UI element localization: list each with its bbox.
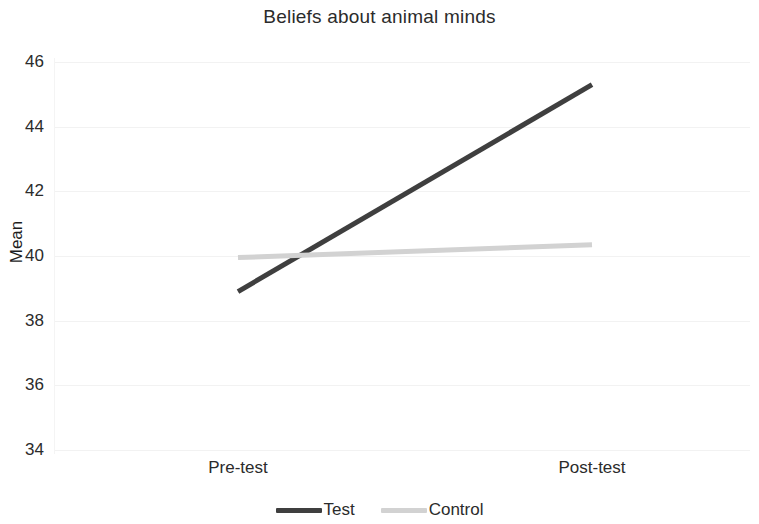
gridline bbox=[55, 256, 750, 257]
gridline bbox=[55, 450, 750, 451]
y-tick-label: 38 bbox=[0, 311, 44, 331]
gridline bbox=[55, 321, 750, 322]
y-tick-label: 36 bbox=[0, 375, 44, 395]
legend-label: Test bbox=[324, 500, 355, 520]
x-tick-label: Post-test bbox=[558, 458, 625, 478]
chart-container: Beliefs about animal minds Mean 46444240… bbox=[0, 0, 759, 524]
x-tick-label: Pre-test bbox=[208, 458, 268, 478]
legend-item-control[interactable]: Control bbox=[381, 500, 484, 520]
chart-title: Beliefs about animal minds bbox=[0, 6, 759, 28]
y-tick-label: 44 bbox=[0, 117, 44, 137]
legend-label: Control bbox=[429, 500, 484, 520]
y-axis-title: Mean bbox=[7, 202, 27, 282]
gridline bbox=[55, 191, 750, 192]
gridline bbox=[55, 127, 750, 128]
legend-swatch-icon bbox=[381, 508, 427, 513]
y-tick-label: 42 bbox=[0, 181, 44, 201]
legend-item-test[interactable]: Test bbox=[276, 500, 355, 520]
y-tick-label: 40 bbox=[0, 246, 44, 266]
y-tick-label: 46 bbox=[0, 52, 44, 72]
gridline bbox=[55, 385, 750, 386]
plot-area bbox=[55, 62, 750, 450]
legend-swatch-icon bbox=[276, 508, 322, 513]
y-tick-label: 34 bbox=[0, 440, 44, 460]
gridline bbox=[55, 62, 750, 63]
chart-legend: TestControl bbox=[0, 500, 759, 520]
